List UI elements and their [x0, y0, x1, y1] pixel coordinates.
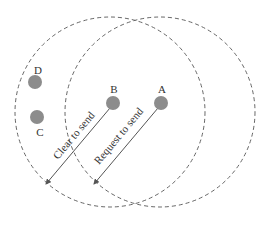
node-b-label: B [110, 83, 117, 95]
node-d [28, 75, 42, 89]
node-b [106, 96, 120, 110]
node-c-label: C [36, 126, 43, 138]
clear-to-send-label: Clear to send [50, 109, 97, 162]
node-d-label: D [34, 64, 42, 76]
node-c [30, 110, 44, 124]
range-circle-a [65, 17, 255, 207]
node-a [154, 96, 168, 110]
request-to-send-label: Request to send [91, 105, 145, 166]
rts-cts-diagram: Clear to send Request to send D C B A [0, 0, 270, 229]
range-circle-b [15, 17, 205, 207]
node-a-label: A [158, 83, 166, 95]
